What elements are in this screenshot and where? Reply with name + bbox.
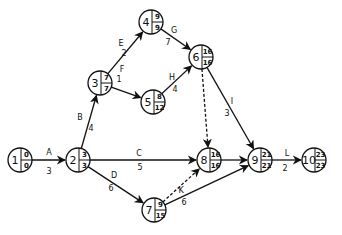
edge-label: 6 bbox=[108, 184, 113, 193]
labels-layer: A3B4E2F1G7H4I3C5D6K6L2 bbox=[46, 26, 290, 207]
edge-label: L bbox=[285, 149, 290, 158]
event-node-3: 377 bbox=[88, 71, 112, 95]
node-id: 1 bbox=[12, 154, 19, 167]
edge-label: 5 bbox=[137, 163, 142, 172]
dummy-arrow bbox=[202, 69, 208, 147]
latest-time: 15 bbox=[156, 212, 166, 220]
edge-label: 4 bbox=[88, 124, 93, 133]
activity-arrow-f bbox=[111, 87, 140, 98]
latest-time: 16 bbox=[203, 59, 213, 67]
node-id: 9 bbox=[252, 154, 259, 167]
edge-label: K bbox=[178, 186, 184, 195]
earliest-time: 8 bbox=[157, 93, 162, 101]
edge-label: I bbox=[231, 97, 233, 106]
latest-time: 23 bbox=[316, 162, 326, 170]
node-id: 4 bbox=[143, 16, 150, 29]
edge-label: 7 bbox=[165, 38, 170, 47]
earliest-time: 16 bbox=[211, 151, 221, 159]
earliest-time: 23 bbox=[316, 151, 326, 159]
edge-label: B bbox=[77, 113, 83, 122]
edge-label: H bbox=[169, 73, 175, 82]
event-node-8: 81616 bbox=[197, 148, 221, 172]
event-node-2: 233 bbox=[66, 148, 90, 172]
event-node-9: 92121 bbox=[248, 148, 272, 172]
earliest-time: 7 bbox=[104, 74, 109, 82]
latest-time: 12 bbox=[155, 104, 165, 112]
edge-label: 2 bbox=[121, 49, 126, 58]
edge-label: 2 bbox=[282, 164, 287, 173]
activity-arrow-b bbox=[81, 95, 96, 148]
edge-label: D bbox=[111, 171, 117, 180]
edge-label: 6 bbox=[181, 198, 186, 207]
event-node-4: 499 bbox=[139, 10, 163, 34]
edge-label: G bbox=[171, 26, 177, 35]
event-node-1: 100 bbox=[8, 148, 32, 172]
latest-time: 0 bbox=[24, 162, 29, 170]
node-id: 5 bbox=[145, 96, 152, 109]
node-id: 3 bbox=[92, 77, 99, 90]
earliest-time: 21 bbox=[262, 151, 272, 159]
edge-label: E bbox=[118, 39, 123, 48]
node-id: 6 bbox=[193, 51, 200, 64]
edge-label: 3 bbox=[224, 109, 229, 118]
earliest-time: 0 bbox=[24, 151, 29, 159]
earliest-time: 16 bbox=[203, 48, 213, 56]
edge-label: 3 bbox=[46, 167, 51, 176]
node-id: 10 bbox=[302, 154, 316, 167]
latest-time: 7 bbox=[104, 85, 109, 93]
activity-arrow-i bbox=[207, 67, 254, 148]
event-node-10: 102323 bbox=[302, 148, 326, 172]
node-id: 7 bbox=[146, 204, 153, 217]
edges-layer bbox=[32, 29, 301, 205]
earliest-time: 9 bbox=[158, 201, 163, 209]
event-node-7: 7915 bbox=[142, 198, 166, 222]
event-node-6: 61616 bbox=[189, 45, 213, 69]
earliest-time: 9 bbox=[155, 13, 160, 21]
latest-time: 16 bbox=[211, 162, 221, 170]
edge-label: F bbox=[120, 65, 125, 74]
node-id: 2 bbox=[70, 154, 77, 167]
latest-time: 21 bbox=[262, 162, 272, 170]
edge-label: C bbox=[136, 149, 142, 158]
node-id: 8 bbox=[201, 154, 208, 167]
earliest-time: 3 bbox=[82, 151, 87, 159]
edge-label: A bbox=[46, 148, 52, 157]
latest-time: 9 bbox=[155, 24, 160, 32]
network-diagram: A3B4E2F1G7H4I3C5D6K6L2 10023337749958126… bbox=[0, 0, 342, 235]
edge-label: 4 bbox=[172, 85, 177, 94]
event-node-5: 5812 bbox=[141, 90, 165, 114]
latest-time: 3 bbox=[82, 162, 87, 170]
edge-label: 1 bbox=[116, 75, 121, 84]
